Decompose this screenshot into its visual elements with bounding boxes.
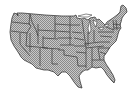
us-outline bbox=[10, 5, 127, 88]
us-states-map bbox=[0, 0, 134, 94]
